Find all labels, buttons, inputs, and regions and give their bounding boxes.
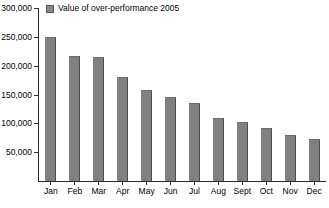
bar-feb[interactable] bbox=[69, 56, 80, 181]
y-tick-mark bbox=[34, 66, 38, 67]
bar-slot bbox=[254, 8, 278, 181]
x-axis-label-nov: Nov bbox=[278, 186, 302, 196]
x-tick-slot bbox=[183, 181, 207, 185]
x-tick-slot bbox=[230, 181, 254, 185]
x-tick-mark bbox=[146, 181, 147, 185]
x-tick-mark bbox=[290, 181, 291, 185]
plot-area: 300,000250,000200,000150,000100,00050,00… bbox=[38, 8, 326, 182]
bar-jun[interactable] bbox=[165, 97, 176, 181]
bar-slot bbox=[135, 8, 159, 181]
bar-aug[interactable] bbox=[213, 118, 224, 181]
x-axis-label-feb: Feb bbox=[63, 186, 87, 196]
x-tick-slot bbox=[278, 181, 302, 185]
y-tick-mark bbox=[34, 95, 38, 96]
x-tick-slot bbox=[135, 181, 159, 185]
x-axis-label-dec: Dec bbox=[302, 186, 326, 196]
x-axis-ticks bbox=[39, 181, 326, 185]
bar-slot bbox=[63, 8, 87, 181]
bar-slot bbox=[39, 8, 63, 181]
x-tick-slot bbox=[206, 181, 230, 185]
bar-apr[interactable] bbox=[117, 77, 128, 181]
x-tick-mark bbox=[194, 181, 195, 185]
y-tick-label: 50,000 bbox=[6, 148, 32, 157]
y-tick-label: 300,000 bbox=[1, 4, 32, 13]
x-tick-mark bbox=[50, 181, 51, 185]
x-tick-slot bbox=[302, 181, 326, 185]
y-tick-label: 100,000 bbox=[1, 119, 32, 128]
y-tick-label: 250,000 bbox=[1, 32, 32, 41]
x-axis-label-may: May bbox=[135, 186, 159, 196]
x-tick-slot bbox=[63, 181, 87, 185]
x-axis-label-mar: Mar bbox=[87, 186, 111, 196]
bar-may[interactable] bbox=[141, 90, 152, 181]
x-tick-mark bbox=[242, 181, 243, 185]
bar-slot bbox=[278, 8, 302, 181]
y-tick-mark bbox=[34, 8, 38, 9]
x-tick-slot bbox=[254, 181, 278, 185]
x-axis-label-apr: Apr bbox=[111, 186, 135, 196]
bar-slot bbox=[87, 8, 111, 181]
bar-jan[interactable] bbox=[45, 37, 56, 181]
bar-slot bbox=[111, 8, 135, 181]
y-tick-label: 200,000 bbox=[1, 61, 32, 70]
x-tick-mark bbox=[218, 181, 219, 185]
bar-series bbox=[39, 8, 326, 181]
bar-mar[interactable] bbox=[93, 57, 104, 181]
x-tick-mark bbox=[98, 181, 99, 185]
bar-slot bbox=[183, 8, 207, 181]
y-tick-mark bbox=[34, 37, 38, 38]
y-tick-label: 150,000 bbox=[1, 90, 32, 99]
x-tick-mark bbox=[74, 181, 75, 185]
x-axis-labels: JanFebMarAprMayJunJulAugSeptOctNovDec bbox=[39, 186, 326, 196]
x-axis-label-sept: Sept bbox=[230, 186, 254, 196]
x-tick-mark bbox=[122, 181, 123, 185]
bar-slot bbox=[302, 8, 326, 181]
bar-sept[interactable] bbox=[237, 122, 248, 181]
x-tick-mark bbox=[266, 181, 267, 185]
bar-jul[interactable] bbox=[189, 103, 200, 181]
bar-slot bbox=[159, 8, 183, 181]
bar-chart: Value of over-performance 2005 300,00025… bbox=[0, 0, 329, 208]
bar-slot bbox=[230, 8, 254, 181]
x-axis-label-jul: Jul bbox=[183, 186, 207, 196]
x-axis-label-jan: Jan bbox=[39, 186, 63, 196]
bar-slot bbox=[206, 8, 230, 181]
x-tick-mark bbox=[314, 181, 315, 185]
x-tick-mark bbox=[170, 181, 171, 185]
bar-nov[interactable] bbox=[285, 135, 296, 181]
bar-dec[interactable] bbox=[309, 139, 320, 181]
y-tick-mark bbox=[34, 152, 38, 153]
x-axis-label-jun: Jun bbox=[159, 186, 183, 196]
x-tick-slot bbox=[111, 181, 135, 185]
chart-caption bbox=[0, 201, 329, 208]
y-tick-mark bbox=[34, 123, 38, 124]
x-tick-slot bbox=[87, 181, 111, 185]
x-axis-label-oct: Oct bbox=[254, 186, 278, 196]
x-axis-label-aug: Aug bbox=[206, 186, 230, 196]
x-tick-slot bbox=[159, 181, 183, 185]
bar-oct[interactable] bbox=[261, 128, 272, 181]
x-tick-slot bbox=[39, 181, 63, 185]
